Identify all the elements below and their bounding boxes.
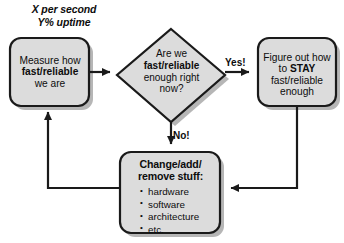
edge-change-to-measure — [48, 112, 120, 188]
headline-annotation: X per second Y% uptime — [4, 3, 124, 29]
headline-line-1: X per second — [4, 3, 124, 16]
stay-box — [258, 38, 336, 106]
decision-diamond — [117, 29, 225, 122]
node-shapes — [10, 29, 336, 233]
change-box — [120, 152, 220, 233]
headline-line-2: Y% uptime — [4, 16, 124, 29]
flowchart-canvas — [0, 0, 344, 243]
measure-box — [10, 38, 89, 106]
flowchart-diagram: X per second Y% uptime Measure how fast/… — [0, 0, 344, 243]
edge-stay-to-change — [231, 105, 297, 188]
